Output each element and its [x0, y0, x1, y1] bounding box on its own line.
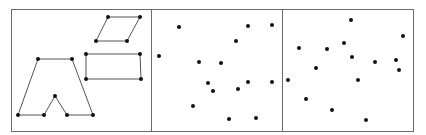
panel-scatter-b [286, 18, 405, 122]
scatter-point [330, 108, 334, 112]
scatter-point [191, 104, 195, 108]
scatter-point [349, 18, 353, 22]
scatter-point [246, 80, 250, 84]
rectangle-vertex [138, 52, 142, 56]
panel-scatter-a [157, 23, 274, 121]
scatter-point [227, 117, 231, 121]
scatter-point [246, 24, 250, 28]
scatter-point [397, 68, 401, 72]
scatter-point [356, 78, 360, 82]
scatter-point [234, 39, 238, 43]
parallelogram-outline [96, 17, 140, 41]
parallelogram-vertex [125, 39, 129, 43]
parallelogram-vertex [138, 15, 142, 19]
scatter-point [325, 47, 329, 51]
scatter-point [236, 87, 240, 91]
scatter-point [206, 81, 210, 85]
rectangle-outline [86, 54, 141, 79]
rectangle-vertex [84, 52, 88, 56]
notched-trapezoid-vertex [42, 113, 46, 117]
scatter-point [401, 34, 405, 38]
scatter-point [219, 61, 223, 65]
scatter-point [350, 55, 354, 59]
scatter-point [254, 116, 258, 120]
scatter-point [342, 41, 346, 45]
scatter-point [286, 78, 290, 82]
notched-trapezoid-vertex [16, 113, 20, 117]
notched-trapezoid-vertex [53, 94, 57, 98]
notched-trapezoid-vertex [65, 113, 69, 117]
three-panel-figure [0, 0, 426, 135]
notched-trapezoid-vertex [91, 113, 95, 117]
panel-shapes [16, 15, 143, 117]
rectangle-vertex [139, 77, 143, 81]
notched-trapezoid-outline [18, 59, 93, 115]
scatter-point [297, 46, 301, 50]
scatter-point [211, 89, 215, 93]
scatter-point [157, 54, 161, 58]
scatter-point [197, 60, 201, 64]
notched-trapezoid-vertex [70, 57, 74, 61]
rectangle-vertex [84, 77, 88, 81]
scatter-point [314, 66, 318, 70]
scatter-point [177, 25, 181, 29]
outer-frame [12, 10, 414, 132]
notched-trapezoid-vertex [36, 57, 40, 61]
parallelogram-vertex [94, 39, 98, 43]
scatter-point [373, 60, 377, 64]
parallelogram-vertex [106, 15, 110, 19]
scatter-point [304, 97, 308, 101]
scatter-point [270, 80, 274, 84]
scatter-point [270, 23, 274, 27]
scatter-point [364, 118, 368, 122]
scatter-point [394, 58, 398, 62]
